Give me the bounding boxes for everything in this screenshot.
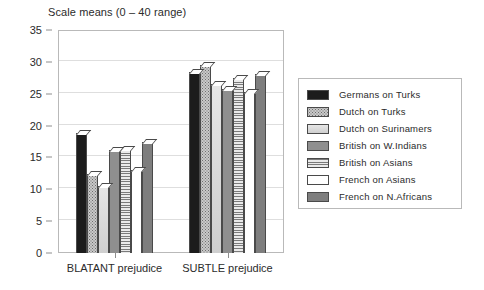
- legend-swatch: [307, 192, 329, 202]
- bar: [131, 170, 142, 253]
- legend-swatch: [307, 158, 329, 168]
- bar-chart-figure: Scale means (0 – 40 range) 0510152025303…: [0, 0, 484, 290]
- legend-label: French on N.Africans: [339, 191, 432, 202]
- y-tick-mark: [46, 125, 52, 126]
- x-axis: BLATANT prejudiceSUBTLE prejudice: [58, 258, 284, 280]
- bar: [109, 150, 120, 253]
- bars-layer: [58, 30, 284, 253]
- legend-label: Dutch on Surinamers: [339, 123, 432, 134]
- bar: [98, 186, 109, 253]
- y-tick-mark: [46, 189, 52, 190]
- legend-label: Germans on Turks: [339, 89, 420, 100]
- bar-top-cap: [142, 139, 157, 144]
- legend-item[interactable]: French on N.Africans: [307, 188, 461, 205]
- legend-swatch: [307, 107, 329, 117]
- y-tick-mark: [46, 221, 52, 222]
- bar: [211, 84, 222, 253]
- bar: [142, 142, 153, 254]
- legend-item[interactable]: Germans on Turks: [307, 86, 461, 103]
- bar: [189, 72, 200, 253]
- legend-swatch: [307, 141, 329, 151]
- bar-top-cap: [255, 71, 270, 76]
- y-tick-mark: [46, 30, 52, 31]
- y-tick-label: 35: [30, 24, 42, 36]
- bar: [200, 65, 211, 253]
- legend-swatch: [307, 90, 329, 100]
- legend-item[interactable]: Dutch on Turks: [307, 103, 461, 120]
- x-tick-mark: [115, 253, 116, 258]
- y-tick-label: 30: [30, 56, 42, 68]
- y-tick-label: 0: [36, 247, 42, 259]
- x-tick-label: SUBTLE prejudice: [182, 262, 273, 274]
- legend-label: British on Asians: [339, 157, 413, 168]
- bar-top-cap: [76, 130, 91, 135]
- bar: [255, 74, 266, 253]
- y-tick-label: 25: [30, 88, 42, 100]
- bar-top-cap: [200, 62, 215, 67]
- legend: Germans on TurksDutch on TurksDutch on S…: [298, 78, 462, 209]
- legend-swatch: [307, 175, 329, 185]
- bar-top-cap: [211, 81, 226, 86]
- y-tick-label: 5: [36, 215, 42, 227]
- bar: [76, 133, 87, 253]
- bar: [233, 78, 244, 253]
- legend-label: British on W.Indians: [339, 140, 427, 151]
- legend-label: Dutch on Turks: [339, 106, 406, 117]
- bar-top-cap: [87, 171, 102, 176]
- y-tick-mark: [46, 253, 52, 254]
- y-tick-mark: [46, 157, 52, 158]
- bar: [222, 89, 233, 253]
- legend-label: French on Asians: [339, 174, 416, 185]
- bar-top-cap: [233, 75, 248, 80]
- y-tick-mark: [46, 93, 52, 94]
- chart-title: Scale means (0 – 40 range): [48, 6, 186, 18]
- bar: [244, 92, 255, 253]
- y-axis: 05101520253035: [0, 30, 52, 253]
- x-tick-label: BLATANT prejudice: [67, 262, 162, 274]
- bar: [87, 174, 98, 253]
- legend-item[interactable]: French on Asians: [307, 171, 461, 188]
- y-tick-label: 10: [30, 183, 42, 195]
- legend-swatch: [307, 124, 329, 134]
- y-tick-label: 15: [30, 151, 42, 163]
- legend-item[interactable]: British on Asians: [307, 154, 461, 171]
- bar: [120, 149, 131, 253]
- y-tick-label: 20: [30, 120, 42, 132]
- y-tick-mark: [46, 61, 52, 62]
- legend-item[interactable]: British on W.Indians: [307, 137, 461, 154]
- x-tick-mark: [228, 253, 229, 258]
- legend-item[interactable]: Dutch on Surinamers: [307, 120, 461, 137]
